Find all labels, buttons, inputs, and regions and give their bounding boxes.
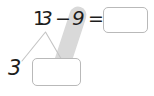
minus-sign: − [55, 9, 71, 28]
bond-known-part-label: 3 [8, 58, 21, 79]
worksheet-canvas: 1 3 − 9 = 3 [0, 0, 154, 96]
answer-box-bond-part[interactable] [32, 58, 81, 86]
minuend-ones-digit: 3 [40, 8, 53, 28]
answer-box-difference[interactable] [103, 7, 148, 33]
equals-sign: = [88, 9, 104, 28]
subtrahend-digit: 9 [72, 8, 85, 28]
